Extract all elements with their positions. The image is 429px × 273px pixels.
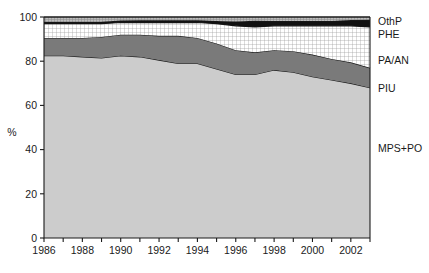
chart-canvas: 020406080100 198619881990199219941996199… xyxy=(0,0,429,273)
x-tick-label: 2000 xyxy=(301,244,325,256)
y-tick-label: 80 xyxy=(25,55,37,67)
legend-label-pa-an: PA/AN xyxy=(378,54,409,66)
chart-legend: OthPPHEPA/ANPIUMPS+PO xyxy=(378,15,422,154)
y-tick-label: 40 xyxy=(25,143,37,155)
y-tick-label: 0 xyxy=(31,232,37,244)
legend-label-piu: PIU xyxy=(378,82,396,94)
y-tick-label: 60 xyxy=(25,99,37,111)
x-tick-label: 1990 xyxy=(109,244,133,256)
x-tick-label: 1986 xyxy=(32,244,56,256)
y-axis-title: % xyxy=(7,126,16,138)
x-tick-label: 2002 xyxy=(339,244,363,256)
x-tick-label: 1992 xyxy=(147,244,171,256)
legend-label-othp: OthP xyxy=(378,15,402,27)
legend-label-phe: PHE xyxy=(378,28,400,40)
y-tick-label: 100 xyxy=(19,11,37,23)
stacked-area-chart: 020406080100 198619881990199219941996199… xyxy=(0,0,429,273)
y-axis-tick-labels: 020406080100 xyxy=(19,11,37,244)
x-axis-tick-labels: 198619881990199219941996199820002002 xyxy=(32,244,362,256)
x-tick-label: 1998 xyxy=(262,244,286,256)
legend-label-mps-po: MPS+PO xyxy=(378,142,422,154)
x-tick-label: 1988 xyxy=(71,244,95,256)
x-tick-label: 1994 xyxy=(186,244,210,256)
y-tick-label: 20 xyxy=(25,188,37,200)
area-band-mps-po xyxy=(44,56,370,238)
chart-bands xyxy=(44,17,370,238)
x-tick-label: 1996 xyxy=(224,244,248,256)
